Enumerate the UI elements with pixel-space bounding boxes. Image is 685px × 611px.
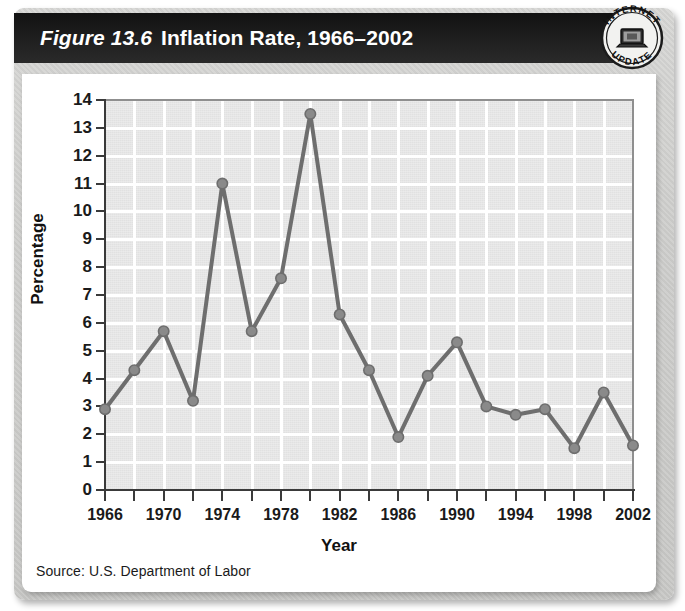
y-axis-tick-label: 12 — [32, 147, 92, 164]
x-axis-tick — [515, 491, 517, 501]
page-title: Figure 13.6Inflation Rate, 1966–2002 — [40, 26, 413, 50]
x-axis-tick — [397, 491, 399, 501]
x-axis-tick — [192, 491, 194, 501]
y-axis-tick — [96, 238, 105, 240]
gridline-vertical — [603, 100, 606, 490]
y-axis-tick — [96, 127, 105, 129]
y-axis-tick-label: 4 — [32, 370, 92, 387]
chart-card: 01234567891011121314 1966197019741978198… — [22, 74, 656, 592]
x-axis-tick — [603, 491, 605, 501]
y-axis-tick — [96, 155, 105, 157]
gridline-vertical — [192, 100, 195, 490]
gridline-vertical — [133, 100, 136, 490]
y-axis-tick — [96, 322, 105, 324]
figure-root: Figure 13.6Inflation Rate, 1966–2002 INT… — [0, 0, 685, 611]
y-axis-tick — [96, 183, 105, 185]
gridline-vertical — [397, 100, 400, 490]
figure-title-bar: Figure 13.6Inflation Rate, 1966–2002 — [14, 13, 634, 63]
x-axis-tick — [427, 491, 429, 501]
y-axis-tick-label: 2 — [32, 425, 92, 442]
gridline-vertical — [309, 100, 312, 490]
x-axis-tick — [251, 491, 253, 501]
y-axis-title: Percentage — [28, 169, 48, 349]
y-axis-tick-label: 0 — [32, 481, 92, 498]
plot-area — [105, 100, 633, 490]
y-axis-tick — [96, 405, 105, 407]
x-axis-tick — [104, 491, 106, 501]
y-axis-tick-label: 14 — [32, 91, 92, 108]
y-axis-tick — [96, 99, 105, 101]
gridline-vertical — [368, 100, 371, 490]
gridline-vertical — [573, 100, 576, 490]
x-axis-tick — [163, 491, 165, 501]
gridline-vertical — [339, 100, 342, 490]
gridline-vertical — [280, 100, 283, 490]
y-axis-tick-label: 13 — [32, 119, 92, 136]
plot-top-border — [104, 99, 634, 101]
figure-number-label: Figure 13.6 — [40, 26, 152, 49]
gridline-vertical — [251, 100, 254, 490]
y-axis-tick — [96, 350, 105, 352]
x-axis-tick — [221, 491, 223, 501]
y-axis-tick — [96, 266, 105, 268]
x-axis-tick — [339, 491, 341, 501]
x-axis-tick — [133, 491, 135, 501]
gridline-vertical — [456, 100, 459, 490]
x-axis-tick — [632, 491, 634, 501]
internet-update-badge[interactable]: INTERNET UPDATE — [592, 2, 672, 72]
y-axis-tick-label: 1 — [32, 453, 92, 470]
gridline-vertical — [427, 100, 430, 490]
x-axis-tick — [544, 491, 546, 501]
x-axis-title: Year — [22, 536, 656, 556]
y-axis-tick — [96, 461, 105, 463]
gridline-vertical — [221, 100, 224, 490]
computer-icon — [617, 29, 647, 47]
x-axis-tick — [456, 491, 458, 501]
gridline-vertical — [163, 100, 166, 490]
y-axis-tick — [96, 294, 105, 296]
x-axis-tick — [368, 491, 370, 501]
internet-update-badge-graphic: INTERNET UPDATE — [592, 2, 672, 72]
y-axis-tick — [96, 210, 105, 212]
y-axis-tick — [96, 378, 105, 380]
x-axis-tick — [280, 491, 282, 501]
gridline-vertical — [485, 100, 488, 490]
gridline-vertical — [515, 100, 518, 490]
x-axis-tick — [573, 491, 575, 501]
x-axis-tick-label: 2002 — [598, 506, 668, 524]
y-axis-tick-label: 3 — [32, 397, 92, 414]
x-axis-tick — [485, 491, 487, 501]
x-axis-tick — [309, 491, 311, 501]
plot-right-border — [632, 99, 634, 491]
y-axis-tick — [96, 433, 105, 435]
gridline-vertical — [544, 100, 547, 490]
source-note: Source: U.S. Department of Labor — [36, 563, 251, 579]
figure-title-text: Inflation Rate, 1966–2002 — [161, 26, 413, 49]
